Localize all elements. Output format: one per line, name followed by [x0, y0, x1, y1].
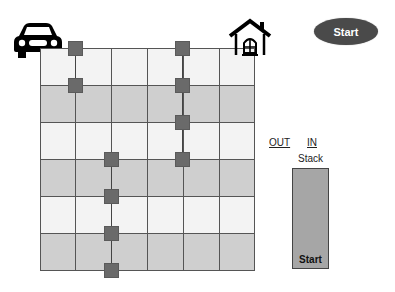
start-button[interactable]: Start: [314, 18, 378, 45]
path-segment: [182, 48, 183, 159]
path-node[interactable]: [175, 41, 190, 56]
path-node[interactable]: [104, 189, 119, 204]
in-link[interactable]: IN: [307, 137, 317, 148]
path-node[interactable]: [175, 115, 190, 130]
stack-container: Start: [292, 168, 329, 269]
path-node[interactable]: [104, 263, 119, 278]
out-link[interactable]: OUT: [269, 137, 290, 148]
path-node[interactable]: [175, 78, 190, 93]
path-node[interactable]: [68, 78, 83, 93]
path-segment: [111, 159, 112, 270]
path-node[interactable]: [104, 152, 119, 167]
stack-item: Start: [293, 254, 328, 265]
path-node[interactable]: [175, 152, 190, 167]
house-icon: [228, 18, 272, 58]
path-node[interactable]: [104, 226, 119, 241]
stack-title: Stack: [298, 153, 323, 164]
path-node[interactable]: [68, 41, 83, 56]
